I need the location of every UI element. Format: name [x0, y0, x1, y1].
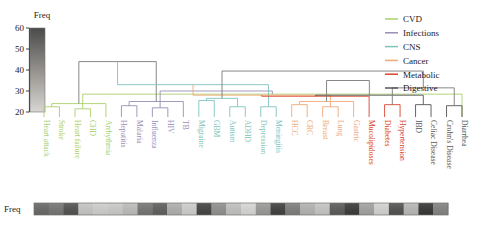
leaf-label: Arrhythmia: [104, 120, 113, 156]
leaf-label: TB: [181, 120, 190, 130]
dendrogram-link: [121, 106, 136, 117]
figure-canvas: Freq 60 50 40 30 20 Heart attackStrokeHe…: [0, 0, 477, 231]
dendrogram-link: [327, 81, 370, 102]
dendrogram-link: [44, 107, 59, 117]
y-tick-40: 40: [15, 65, 25, 75]
leaf-label: Stroke: [57, 120, 66, 140]
legend-label-infections: Infections: [403, 28, 439, 38]
leaf-label: Mucolipidoses: [367, 120, 376, 165]
legend-label-cancer: Cancer: [403, 56, 428, 66]
colorbar-title: Freq: [34, 10, 51, 20]
dendrogram-link: [160, 91, 272, 108]
dendrogram-link: [447, 106, 462, 117]
legend-label-cvd: CVD: [403, 14, 423, 24]
dendrogram-link: [385, 105, 400, 117]
leaf-label: Breast: [321, 120, 330, 140]
leaf-label: Lung: [336, 120, 345, 136]
leaf-label: Hypertension: [398, 120, 407, 161]
dendrogram-link: [199, 100, 214, 117]
leaf-label: Crohn's Disease: [445, 120, 454, 169]
legend-label-cns: CNS: [403, 42, 421, 52]
leaf-label: Malaria: [135, 120, 144, 144]
leaf-labels: Heart attackStrokeHeart failureCHDArrhyt…: [42, 120, 469, 169]
leaf-label: Diarrhea: [460, 120, 469, 147]
leaf-label: CHD: [88, 120, 97, 137]
y-tick-20: 20: [15, 107, 25, 117]
leaf-label: IBD: [414, 120, 423, 134]
leaf-label: GBM: [212, 120, 221, 138]
leaf-label: Meningitis: [274, 120, 283, 153]
dendrogram-link: [261, 107, 276, 117]
leaf-label: Autism: [228, 120, 237, 142]
y-tick-30: 30: [15, 86, 25, 96]
leaf-label: Influenza: [150, 120, 159, 149]
dendrogram-link: [416, 105, 431, 117]
dendrogram-links: [44, 62, 462, 117]
dendrogram-link: [292, 105, 307, 117]
dendrogram-svg: Freq 60 50 40 30 20 Heart attackStrokeHe…: [0, 0, 477, 231]
dendrogram-link: [118, 62, 269, 107]
legend: CVDInfectionsCNSCancerMetabolicDigestive: [385, 14, 440, 93]
leaf-label: CRC: [305, 120, 314, 135]
dendrogram-link: [323, 107, 338, 117]
leaf-label: HCC: [290, 120, 299, 136]
strip-shading: [34, 203, 448, 215]
legend-label-digestive: Digestive: [403, 83, 438, 93]
leaf-label: HIV: [166, 120, 175, 134]
dendrogram-link: [207, 98, 238, 106]
dendrogram-link: [230, 107, 245, 117]
strip-label: Freq: [4, 204, 21, 214]
leaf-label: Hepatitis: [119, 120, 128, 147]
y-axis-ticks: [26, 28, 29, 112]
leaf-label: Migraine: [197, 120, 206, 148]
freq-heatmap-strip: [34, 203, 448, 215]
leaf-label: Heart failure: [73, 120, 82, 159]
dendrogram-link: [152, 108, 167, 117]
y-tick-50: 50: [15, 44, 25, 54]
leaf-label: Gastric: [352, 120, 361, 143]
dendrogram-link: [75, 109, 90, 117]
colorbar-gradient: [30, 28, 45, 112]
dendrogram-link: [83, 94, 462, 117]
y-tick-60: 60: [15, 23, 25, 33]
leaf-label: ADHD: [243, 120, 252, 142]
legend-label-metabolic: Metabolic: [403, 70, 440, 80]
dendrogram-figure: Freq 60 50 40 30 20 Heart attackStrokeHe…: [0, 0, 477, 231]
leaf-label: Celiac Disease: [429, 120, 438, 166]
dendrogram-link: [262, 95, 369, 117]
leaf-label: Heart attack: [42, 120, 51, 157]
leaf-label: Diabetes: [383, 120, 392, 147]
leaf-label: Depression: [259, 120, 268, 154]
